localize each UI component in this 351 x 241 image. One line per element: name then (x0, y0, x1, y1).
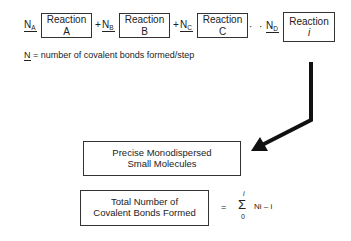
total-bonds-box: Total Number of Covalent Bonds Formed (80, 190, 209, 226)
sigma-icon: Σ (238, 197, 246, 212)
sum-upper-limit: i (243, 190, 245, 197)
product-line2: Small Molecules (127, 159, 196, 170)
sum-expression: Ni – i (254, 202, 272, 211)
product-line1: Precise Monodispersed (112, 148, 211, 159)
sum-lower-limit: 0 (241, 213, 245, 220)
total-line2: Covalent Bonds Formed (93, 208, 195, 219)
product-box: Precise Monodispersed Small Molecules (83, 141, 241, 176)
equals-sign: = (221, 202, 226, 212)
